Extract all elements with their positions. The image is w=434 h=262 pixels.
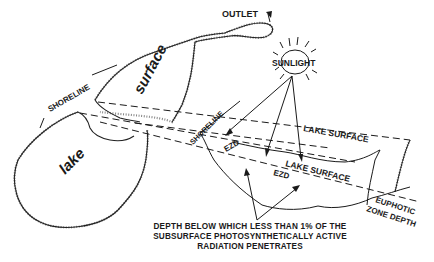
caption-line-2: SUBSURFACE PHOTOSYNTHETICALLY ACTIVE <box>130 232 370 242</box>
surface-label: surface <box>130 41 170 96</box>
lake-label: lake <box>55 144 88 177</box>
euphotic-depth-caption: DEPTH BELOW WHICH LESS THAN 1% OF THE SU… <box>130 222 370 252</box>
lake-surface-label-upper: LAKE SURFACE <box>303 123 370 144</box>
ezd-label-upper: EZD <box>223 138 242 154</box>
caption-line-3: RADIATION PENETRATES <box>130 242 370 252</box>
caption-line-1: DEPTH BELOW WHICH LESS THAN 1% OF THE <box>130 222 370 232</box>
lake-plan-view <box>14 11 272 227</box>
shoreline-leader-upper <box>92 65 117 75</box>
ezd-label-lower: EZD <box>273 168 291 181</box>
sunlight-label: SUNLIGHT <box>272 58 316 68</box>
shoreline-leader-lower <box>40 118 44 128</box>
outlet-label: OUTLET <box>222 9 258 19</box>
shoreline-label-section: SHORELINE <box>188 109 225 146</box>
shoreline-label-plan: SHORELINE <box>47 82 92 113</box>
